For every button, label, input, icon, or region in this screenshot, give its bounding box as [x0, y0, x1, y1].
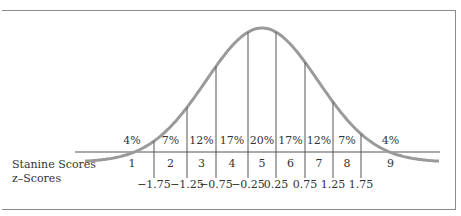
stanine-label: 9	[371, 157, 411, 170]
percent-label: 7%	[327, 134, 367, 147]
stanine-label: 1	[112, 157, 152, 170]
row-label-z: z–Scores	[12, 172, 61, 185]
stanine-label: 8	[327, 157, 367, 170]
percent-label: 4%	[371, 134, 411, 147]
z-score-label: 1.75	[341, 178, 381, 191]
percent-label: 4%	[112, 134, 152, 147]
row-label-stanine: Stanine Scores	[12, 158, 96, 171]
